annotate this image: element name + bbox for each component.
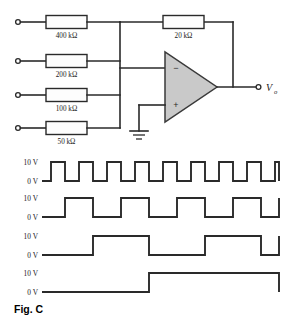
ground-symbol xyxy=(130,131,148,139)
opamp-inverting-sign: − xyxy=(173,63,178,73)
output-label: V xyxy=(266,82,274,93)
input-branch-4: 50 kΩ xyxy=(16,122,120,147)
input-branch-2: 200 kΩ xyxy=(16,55,120,80)
figure-svg: 400 kΩ 200 kΩ 100 kΩ xyxy=(0,0,283,319)
opamp-noninverting-sign: + xyxy=(173,100,178,110)
waveform-chart: 10 V 0 V 10 V 0 V 10 V 0 V 10 V 0 V xyxy=(24,158,279,297)
waveform-row-2: 10 V 0 V xyxy=(24,194,279,222)
feedback-resistor-label: 20 kΩ xyxy=(175,32,193,40)
waveform-row-1: 10 V 0 V xyxy=(24,158,279,186)
input-resistor-4 xyxy=(46,122,87,135)
figure-container: 400 kΩ 200 kΩ 100 kΩ xyxy=(0,0,283,319)
waveform-4-trace xyxy=(42,273,279,292)
waveform-2-low-label: 0 V xyxy=(27,213,38,222)
figure-caption: Fig. C xyxy=(14,303,44,315)
output-label-subscript: o xyxy=(274,88,278,95)
waveform-2-trace xyxy=(42,198,279,217)
waveform-3-high-label: 10 V xyxy=(24,232,39,241)
feedback-resistor xyxy=(163,16,204,29)
feedback-branch: 20 kΩ xyxy=(163,16,204,41)
opamp: − + xyxy=(165,52,217,122)
input-branch-3: 100 kΩ xyxy=(16,89,120,114)
input-resistor-3-label: 100 kΩ xyxy=(56,105,78,113)
waveform-1-high-label: 10 V xyxy=(24,158,39,167)
circuit-diagram: 400 kΩ 200 kΩ 100 kΩ xyxy=(16,16,278,147)
waveform-3-low-label: 0 V xyxy=(27,251,38,260)
input-resistor-1-label: 400 kΩ xyxy=(56,32,78,40)
waveform-row-3: 10 V 0 V xyxy=(24,232,279,260)
waveform-2-high-label: 10 V xyxy=(24,194,39,203)
waveform-1-low-label: 0 V xyxy=(27,177,38,186)
output-terminal[interactable] xyxy=(256,85,261,90)
input-resistor-2-label: 200 kΩ xyxy=(56,71,78,79)
waveform-4-low-label: 0 V xyxy=(27,288,38,297)
waveform-1-trace xyxy=(42,162,279,181)
waveform-row-4: 10 V 0 V xyxy=(24,269,279,297)
input-resistor-3 xyxy=(46,89,87,102)
waveform-3-trace xyxy=(42,236,279,255)
input-resistor-2 xyxy=(46,55,87,68)
input-resistor-4-label: 50 kΩ xyxy=(58,138,76,146)
input-resistor-1 xyxy=(46,16,87,29)
waveform-4-high-label: 10 V xyxy=(24,269,39,278)
input-branch-1: 400 kΩ xyxy=(16,16,120,41)
